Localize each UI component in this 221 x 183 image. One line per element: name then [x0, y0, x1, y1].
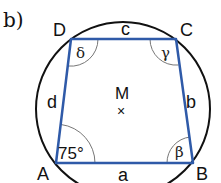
center-label: M [115, 84, 129, 103]
side-label-a: a [118, 165, 129, 183]
vertex-label-a: A [37, 164, 49, 183]
vertex-label-b: B [196, 164, 208, 183]
side-label-c: c [121, 19, 130, 39]
side-label-d: d [47, 92, 57, 112]
cyclic-quadrilateral-diagram: b) A B C D a b c d 75° β γ δ M × [0, 0, 221, 183]
part-label: b) [3, 8, 24, 32]
vertex-label-d: D [53, 20, 66, 40]
angle-label-delta: δ [76, 44, 85, 62]
angle-label-gamma: γ [161, 44, 170, 62]
angle-label-beta: β [175, 143, 184, 161]
vertex-label-c: C [180, 20, 193, 40]
angle-label-alpha: 75° [58, 144, 84, 163]
center-marker-icon: × [117, 103, 125, 119]
side-label-b: b [186, 92, 196, 112]
